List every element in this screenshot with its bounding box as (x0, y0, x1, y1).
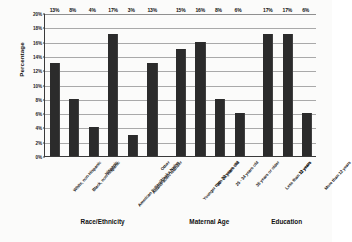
bar-slot: 8% (69, 14, 79, 156)
y-tick-label: 4% (36, 126, 42, 131)
bar-slot: 17% (108, 14, 118, 156)
bar-value-label: 8% (215, 7, 222, 13)
bar: 17% (108, 34, 118, 156)
x-category-label: 12 years (297, 160, 312, 176)
bar-slot: 17% (263, 14, 273, 156)
bar: 13% (50, 63, 60, 156)
bar: 16% (195, 42, 205, 156)
y-tick-label: 20% (33, 12, 42, 17)
bar-value-label: 13% (147, 7, 157, 13)
bar: 6% (235, 113, 245, 156)
plot-area: 0%2%4%6%8%10%12%14%16%18%20% 13%8%4%17%3… (44, 14, 316, 157)
bar-slot: 6% (235, 14, 245, 156)
y-tick-label: 8% (36, 97, 42, 102)
y-tick-label: 14% (33, 54, 42, 59)
bar: 4% (89, 127, 99, 156)
y-tick-label: 0% (36, 155, 42, 160)
group-title: Education (237, 218, 337, 225)
bar-value-label: 17% (283, 7, 293, 13)
bar-series: 13%8%4%17%3%13%15%16%8%6%17%17%6% (45, 14, 316, 156)
bar: 15% (176, 49, 186, 156)
bar-slot: 17% (283, 14, 293, 156)
y-tick-label: 16% (33, 40, 42, 45)
bar-value-label: 13% (50, 7, 60, 13)
y-tick-mark (43, 157, 46, 158)
bar-slot: 3% (128, 14, 138, 156)
bar: 3% (128, 135, 138, 156)
bar: 17% (283, 34, 293, 156)
y-tick-label: 10% (33, 83, 42, 88)
y-tick-label: 6% (36, 112, 42, 117)
bar-slot: 13% (50, 14, 60, 156)
bar-slot: 15% (176, 14, 186, 156)
bar: 8% (215, 99, 225, 156)
bar-slot: 8% (215, 14, 225, 156)
bar: 6% (302, 113, 312, 156)
group-title: Race/Ethnicity (53, 218, 153, 225)
bar-slot: 4% (89, 14, 99, 156)
bar-value-label: 4% (89, 7, 96, 13)
bar: 8% (69, 99, 79, 156)
bar: 17% (263, 34, 273, 156)
bar-value-label: 17% (263, 7, 273, 13)
y-tick-label: 2% (36, 140, 42, 145)
x-category-label: More than 12 years (324, 160, 352, 191)
bar-value-label: 6% (235, 7, 242, 13)
bar: 13% (147, 63, 157, 156)
bar-value-label: 3% (128, 7, 135, 13)
y-tick-label: 12% (33, 69, 42, 74)
bar-slot: 6% (302, 14, 312, 156)
y-tick-label: 18% (33, 26, 42, 31)
bar-value-label: 8% (69, 7, 76, 13)
bar-slot: 13% (147, 14, 157, 156)
y-axis-title: Percentage (18, 17, 25, 103)
bar-value-label: 17% (108, 7, 118, 13)
bar-slot: 16% (195, 14, 205, 156)
bar-value-label: 15% (176, 7, 186, 13)
bar-value-label: 16% (195, 7, 205, 13)
bar-value-label: 6% (302, 7, 309, 13)
